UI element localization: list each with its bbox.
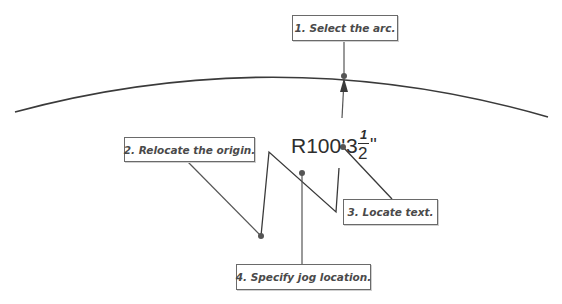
callout-jog-location: 4. Specify jog location.: [236, 264, 371, 290]
dimension-suffix: ": [370, 135, 377, 154]
dimension-denominator: 2: [358, 145, 367, 162]
diagram-canvas: [0, 0, 562, 304]
callout-locate-text: 3. Locate text.: [343, 199, 438, 225]
callout-relocate-origin: 2. Relocate the origin.: [124, 137, 255, 162]
arc-point-dot: [341, 73, 347, 79]
arc: [15, 77, 548, 117]
dimension-prefix: R100': [291, 135, 345, 156]
callout-select-arc: 1. Select the arc.: [292, 15, 398, 41]
leader-relocate-origin: [188, 162, 261, 236]
dimension-whole: 3: [346, 135, 358, 156]
jog-line: [261, 152, 339, 236]
dimension-numerator: 1: [360, 128, 367, 141]
